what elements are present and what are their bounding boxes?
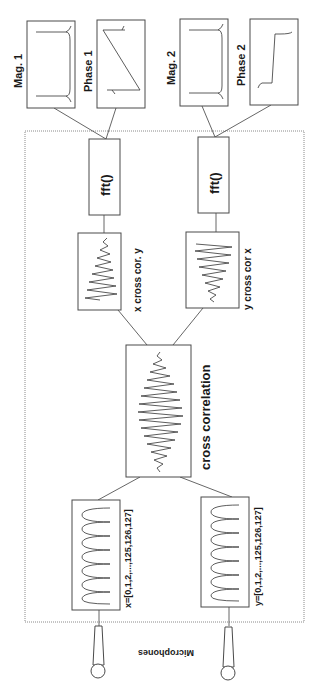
y-input-signal	[201, 497, 249, 607]
microphones-label: Microphones	[138, 648, 194, 658]
fft1-label: fft()	[98, 174, 113, 196]
microphone-y-icon	[221, 627, 235, 680]
mag2-plot	[180, 19, 228, 106]
x-input-label: x=[0,1,2,...,125,126,127]	[123, 509, 133, 608]
microphone-x-icon	[91, 626, 105, 678]
y-cross-cor-x-label: y cross cor x	[242, 248, 253, 310]
fft2-label: fft()	[207, 172, 222, 194]
x-cross-cor-y-plot	[78, 233, 121, 310]
y-input-label: y=[0,1,2,...,125,126,127]	[253, 507, 263, 606]
phase2-plot	[250, 19, 298, 105]
phase1-plot	[97, 20, 145, 108]
mag2-label: Mag. 2	[165, 51, 177, 85]
phase2-label: Phase 2	[235, 44, 247, 86]
cross-correlation-label: cross correlation	[198, 364, 213, 470]
signal-flow-diagram: Mag. 1 Phase 1 Mag. 2 Phase 2 fft() fft(…	[0, 0, 326, 682]
mag1-label: Mag. 1	[12, 54, 24, 88]
fft2-block: fft()	[198, 137, 229, 213]
x-input-signal	[72, 500, 120, 610]
mag1-plot	[27, 21, 75, 108]
cross-correlation-plot	[126, 345, 191, 477]
phase1-label: Phase 1	[82, 50, 94, 92]
y-cross-cor-x-plot	[186, 232, 239, 308]
x-cross-cor-y-label: x cross cor. y	[132, 248, 143, 312]
fft1-block: fft()	[89, 139, 120, 215]
